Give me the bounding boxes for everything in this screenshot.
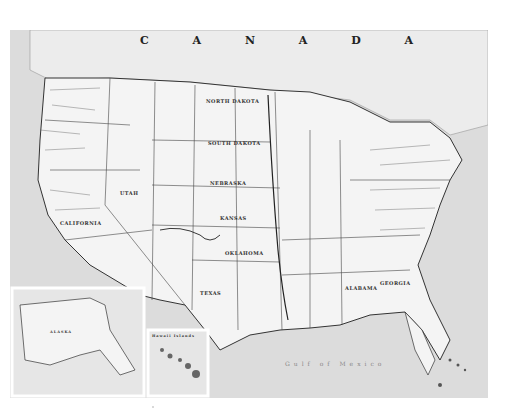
north-dakota-label: NORTH DAKOTA bbox=[206, 98, 259, 104]
us-map: C A N A D A NORTH DAKOTA SOUTH DAKOTA NE… bbox=[10, 30, 488, 398]
georgia-label: GEORGIA bbox=[380, 280, 411, 286]
hawaii-inset-title: Hawaii Islands bbox=[152, 334, 195, 338]
gulf-of-mexico-label: Gulf of Mexico bbox=[285, 360, 385, 367]
south-dakota-label: SOUTH DAKOTA bbox=[208, 140, 261, 146]
nebraska-label: NEBRASKA bbox=[210, 180, 246, 186]
alaska-inset-title: ALASKA bbox=[50, 330, 72, 334]
texas-label: TEXAS bbox=[200, 290, 221, 296]
alabama-label: ALABAMA bbox=[345, 285, 377, 291]
utah-label: UTAH bbox=[120, 190, 138, 196]
scan-artifact-dot bbox=[152, 406, 154, 408]
california-label: CALIFORNIA bbox=[60, 220, 102, 226]
hawaii-inset bbox=[148, 330, 208, 396]
kansas-label: KANSAS bbox=[220, 215, 247, 221]
map-graphic bbox=[10, 30, 488, 398]
canada-label: C A N A D A bbox=[140, 34, 433, 47]
oklahoma-label: OKLAHOMA bbox=[225, 250, 264, 256]
